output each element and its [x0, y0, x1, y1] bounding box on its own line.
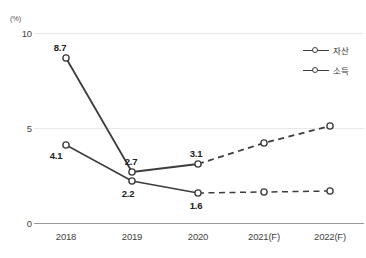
chart-legend: 자산 소득	[303, 40, 365, 80]
legend-label-income: 소득	[333, 64, 349, 76]
data-point-income-2018[interactable]	[63, 142, 69, 148]
x-tick-label-2018: 2018	[56, 231, 76, 242]
legend-item-income[interactable]: 소득	[303, 60, 365, 80]
series-layer	[0, 0, 366, 258]
legend-label-assets: 자산	[333, 44, 349, 56]
x-tick-label-2022f: 2022(F)	[314, 231, 346, 242]
x-tick-label-2021f: 2021(F)	[248, 231, 280, 242]
point-label-income-2019: 2.2	[122, 188, 135, 199]
point-label-assets-2019: 2.7	[125, 156, 138, 167]
point-label-assets-2018: 8.7	[54, 42, 67, 53]
data-point-assets-2020[interactable]	[195, 161, 201, 167]
data-point-assets-2021f[interactable]	[261, 140, 267, 146]
point-label-income-2020: 1.6	[190, 200, 203, 211]
data-point-income-2020[interactable]	[195, 190, 201, 196]
data-point-income-2021f[interactable]	[261, 189, 267, 195]
x-tick-label-2020: 2020	[188, 231, 208, 242]
data-point-assets-2022f[interactable]	[327, 123, 333, 129]
chart-container: (%) 10 5 0 8.7 4.1 2.7 2.2	[0, 0, 366, 258]
legend-marker-icon-assets	[303, 45, 329, 55]
data-point-assets-2019[interactable]	[129, 169, 135, 175]
point-label-income-2018: 4.1	[50, 150, 63, 161]
data-point-income-2019[interactable]	[129, 178, 135, 184]
point-label-assets-2020: 3.1	[190, 148, 203, 159]
data-point-assets-2018[interactable]	[63, 55, 69, 61]
data-point-income-2022f[interactable]	[327, 188, 333, 194]
x-tick-label-2019: 2019	[122, 231, 142, 242]
legend-marker-icon-income	[303, 65, 329, 75]
legend-item-assets[interactable]: 자산	[303, 40, 365, 60]
